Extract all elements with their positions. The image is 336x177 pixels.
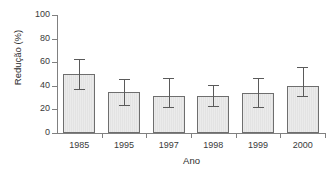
y-tick-label: 60	[0, 57, 50, 66]
error-bar-cap-upper	[163, 78, 174, 79]
y-tick	[52, 86, 57, 87]
y-tick-label: 0	[0, 128, 50, 137]
y-tick	[52, 62, 57, 63]
error-bar-cap-lower	[253, 107, 264, 108]
y-tick	[52, 15, 57, 16]
error-bar-line	[303, 67, 304, 97]
error-bar-line	[213, 85, 214, 106]
error-bar-cap-upper	[208, 85, 219, 86]
bar-chart-figure: Redução (%) Ano 020406080100 19851995199…	[0, 0, 336, 177]
error-bar-line	[258, 78, 259, 108]
error-bar-line	[124, 79, 125, 105]
error-bar-cap-lower	[208, 106, 219, 107]
x-tick	[236, 133, 237, 138]
y-tick	[52, 39, 57, 40]
x-tick-label: 2000	[280, 140, 325, 150]
y-tick-label: 100	[0, 10, 50, 19]
y-tick-label: 20	[0, 104, 50, 113]
x-tick	[146, 133, 147, 138]
y-tick-label: 40	[0, 81, 50, 90]
x-tick-label: 1985	[57, 140, 102, 150]
y-axis-line	[57, 15, 58, 134]
error-bar-cap-lower	[74, 89, 85, 90]
x-tick	[325, 133, 326, 138]
y-tick	[52, 109, 57, 110]
x-tick-label: 1995	[102, 140, 147, 150]
error-bar-cap-upper	[297, 67, 308, 68]
error-bar-cap-lower	[163, 107, 174, 108]
error-bar-cap-upper	[74, 59, 85, 60]
error-bar-cap-upper	[119, 79, 130, 80]
x-tick-label: 1999	[236, 140, 281, 150]
error-bar-line	[169, 78, 170, 108]
x-tick-label: 1997	[146, 140, 191, 150]
x-tick	[280, 133, 281, 138]
x-tick	[191, 133, 192, 138]
x-axis-title: Ano	[57, 155, 326, 166]
x-tick-label: 1998	[191, 140, 236, 150]
y-tick-label: 80	[0, 34, 50, 43]
y-tick	[52, 133, 57, 134]
error-bar-cap-upper	[253, 78, 264, 79]
error-bar-cap-lower	[297, 96, 308, 97]
error-bar-cap-lower	[119, 105, 130, 106]
x-tick	[102, 133, 103, 138]
error-bar-line	[79, 59, 80, 90]
